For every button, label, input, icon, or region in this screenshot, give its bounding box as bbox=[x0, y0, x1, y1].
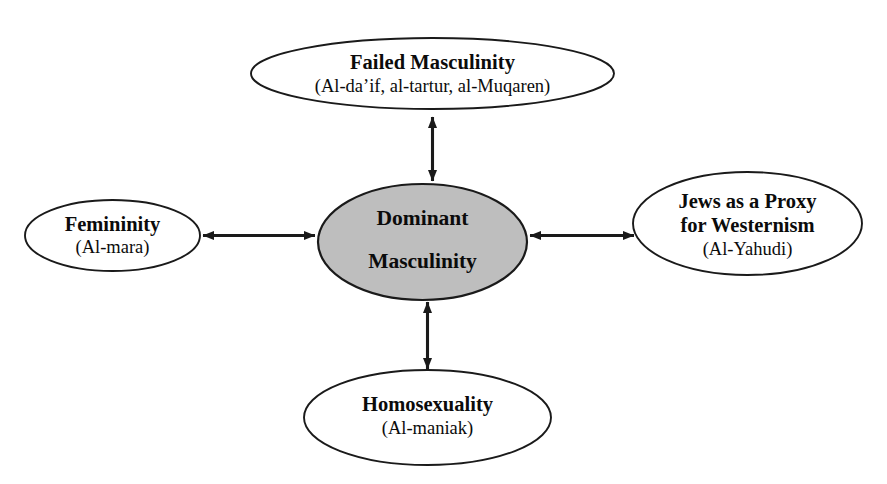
node-shape-jews-as-a-proxy[interactable] bbox=[633, 172, 862, 275]
diagram-svg bbox=[0, 0, 887, 484]
node-shape-dominant-masculinity[interactable] bbox=[318, 184, 527, 300]
node-shape-homosexuality[interactable] bbox=[304, 370, 551, 465]
diagram-canvas: Failed Masculinity (Al-da’if, al-tartur,… bbox=[0, 0, 887, 484]
node-shape-femininity[interactable] bbox=[25, 200, 200, 271]
node-shape-failed-masculinity[interactable] bbox=[251, 38, 614, 109]
